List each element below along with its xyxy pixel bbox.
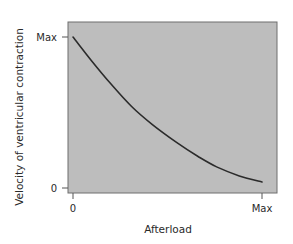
y-tick-label-zero: 0 — [51, 183, 57, 194]
x-tick-label-zero: 0 — [70, 203, 76, 214]
x-tick-label-max: Max — [252, 203, 273, 214]
y-tick-label-max: Max — [36, 32, 57, 43]
y-axis-label: Velocity of ventricular contraction — [13, 28, 25, 206]
plot-area — [68, 22, 277, 193]
chart: Max 0 0 Max Afterload Velocity of ventri… — [0, 0, 293, 244]
x-axis-label: Afterload — [144, 223, 192, 235]
